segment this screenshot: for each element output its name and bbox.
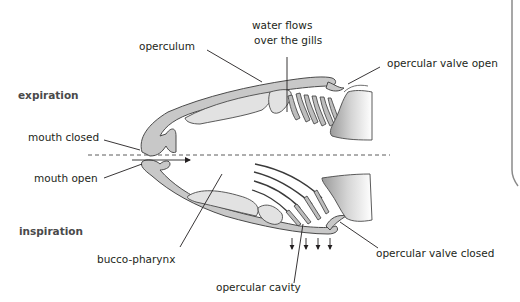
leader-operculum	[207, 50, 262, 82]
section-label-expiration: expiration	[18, 89, 79, 101]
section-label-inspiration: inspiration	[19, 225, 83, 237]
gill-filaments-expiration	[288, 93, 339, 126]
label-opercular-valve-open: opercular valve open	[387, 57, 498, 69]
inspiration-head	[141, 160, 372, 249]
label-opercular-valve-closed: opercular valve closed	[376, 247, 494, 259]
leader-mouth-closed	[104, 140, 140, 150]
label-water-flows-line1: water flows	[252, 19, 312, 31]
page-edge-border	[512, 0, 518, 186]
leader-opercular-valve-open	[348, 67, 380, 84]
label-bucco-pharynx: bucco-pharynx	[97, 253, 175, 265]
gill-filaments-inspiration	[286, 190, 329, 226]
leader-opercular-valve-closed	[340, 222, 378, 248]
label-mouth-open: mouth open	[34, 172, 98, 184]
downward-pressure-arrows	[292, 238, 330, 249]
gill-ventilation-diagram: expiration inspiration operculum water f…	[0, 0, 520, 302]
label-water-flows-line2: over the gills	[254, 34, 322, 46]
label-operculum: operculum	[139, 40, 195, 52]
label-opercular-cavity: opercular cavity	[216, 281, 301, 293]
upper-gill-arch-tissue	[269, 90, 292, 114]
label-mouth-closed: mouth closed	[28, 131, 99, 143]
leader-mouth-open	[104, 164, 142, 178]
body-trunk-lower	[322, 174, 372, 221]
leader-opercular-cavity	[294, 224, 303, 283]
expiration-head	[141, 77, 372, 156]
